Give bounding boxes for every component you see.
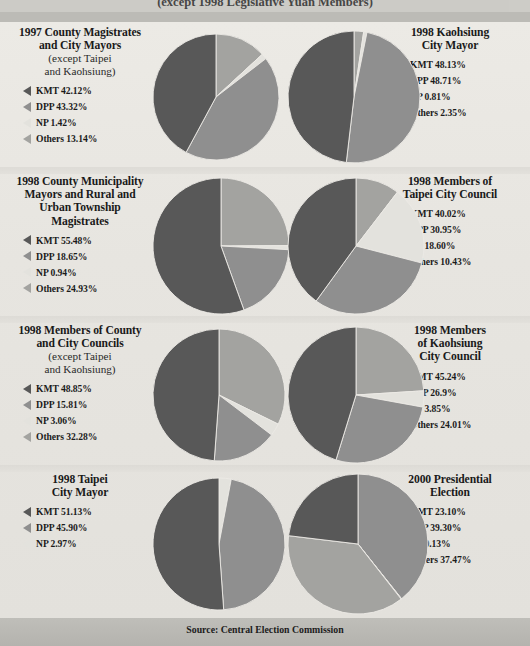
- legend-label: KMT 42.12%: [36, 85, 92, 96]
- chart-row-3: 1998 Members of Countyand City Councils(…: [0, 320, 530, 469]
- chart-title-line: and City Councils: [5, 337, 155, 350]
- legend-label: Others 32.28%: [36, 431, 97, 442]
- legend-item: Others 13.14%: [23, 131, 97, 146]
- footer-band: Source: Central Election Commission: [0, 618, 530, 646]
- chart-text-block: 1998 County MunicipalityMayors and Rural…: [5, 175, 155, 296]
- top-band: [0, 12, 530, 22]
- pie-chart: [287, 326, 425, 464]
- legend-item: Others 32.28%: [23, 429, 97, 444]
- chart-subtitle-line: (except Taipei: [5, 350, 155, 363]
- pie-slice: [153, 329, 219, 461]
- chart-row-2: 1998 County MunicipalityMayors and Rural…: [0, 171, 530, 320]
- chart-cell-7: 2000 PresidentialElectionKMT 23.10%DPP 3…: [265, 469, 530, 618]
- legend-marker-triangle-icon: [23, 400, 31, 410]
- pie-chart: [287, 177, 425, 315]
- legend-item: KMT 55.48%: [23, 233, 92, 248]
- chart-title: 1998 Members of Countyand City Councils: [5, 324, 155, 350]
- chart-title-line: 1997 County Magistrates: [5, 26, 155, 39]
- legend-item: NP 2.97%: [23, 536, 77, 551]
- chart-cell-1: 1998 KaohsiungCity MayorKMT 48.13%DPP 48…: [265, 22, 530, 171]
- legend-item: KMT 42.12%: [23, 83, 92, 98]
- chart-subtitle: (except Taipeiand Kaohsiung): [5, 52, 155, 78]
- legend-marker-triangle-icon: [23, 235, 31, 245]
- chart-title: 1998 TaipeiCity Mayor: [5, 473, 155, 499]
- legend-label: DPP 45.90%: [36, 522, 87, 533]
- legend-marker-triangle-icon: [23, 267, 31, 277]
- legend-item: Others 24.93%: [23, 281, 97, 296]
- legend-item: DPP 15.81%: [23, 397, 87, 412]
- legend-label: NP 2.97%: [36, 538, 77, 549]
- legend-marker-triangle-icon: [23, 384, 31, 394]
- legend-marker-triangle-icon: [23, 283, 31, 293]
- pie-slice: [288, 474, 358, 544]
- legend-marker-triangle-icon: [23, 134, 31, 144]
- chart-title-line: City Mayor: [5, 486, 155, 499]
- chart-legend: KMT 51.13%DPP 45.90%NP 2.97%: [5, 504, 155, 551]
- chart-cell-6: 1998 TaipeiCity MayorKMT 51.13%DPP 45.90…: [0, 469, 265, 618]
- chart-title-line: Mayors and Rural and: [5, 188, 155, 201]
- chart-row-1: 1997 County Magistratesand City Mayors(e…: [0, 22, 530, 171]
- chart-cell-4: 1998 Members of Countyand City Councils(…: [0, 320, 265, 469]
- legend-item: KMT 48.85%: [23, 381, 92, 396]
- legend-label: KMT 55.48%: [36, 235, 92, 246]
- chart-title: 1998 County MunicipalityMayors and Rural…: [5, 175, 155, 228]
- chart-legend: KMT 55.48%DPP 18.65%NP 0.94%Others 24.93…: [5, 233, 155, 296]
- charts-sheet: 1997 County Magistratesand City Mayors(e…: [0, 22, 530, 618]
- chart-cell-3: 1998 Members ofTaipei City CouncilKMT 40…: [265, 171, 530, 320]
- legend-marker-triangle-icon: [23, 416, 31, 426]
- chart-title-line: 1998 County Municipality: [5, 175, 155, 188]
- legend-item: DPP 45.90%: [23, 520, 87, 535]
- legend-label: DPP 15.81%: [36, 399, 87, 410]
- chart-legend: KMT 48.85%DPP 15.81%NP 3.06%Others 32.28…: [5, 381, 155, 444]
- chart-title-line: Urban Township: [5, 201, 155, 214]
- source-note: Source: Central Election Commission: [0, 618, 530, 642]
- legend-marker-triangle-icon: [23, 539, 31, 549]
- chart-subtitle-line: (except Taipei: [5, 52, 155, 65]
- legend-item: NP 3.06%: [23, 413, 77, 428]
- chart-cell-5: 1998 Membersof KaohsiungCity CouncilKMT …: [265, 320, 530, 469]
- chart-title-line: and City Mayors: [5, 39, 155, 52]
- pie-slice: [288, 31, 354, 163]
- chart-subtitle: (except Taipeiand Kaohsiung): [5, 350, 155, 376]
- legend-label: NP 3.06%: [36, 415, 77, 426]
- chart-title: 1997 County Magistratesand City Mayors: [5, 26, 155, 52]
- chart-title-line: Magistrates: [5, 215, 155, 228]
- legend-item: KMT 51.13%: [23, 504, 92, 519]
- pie-chart: [152, 33, 280, 161]
- legend-item: DPP 43.32%: [23, 99, 87, 114]
- legend-marker-triangle-icon: [23, 102, 31, 112]
- legend-item: NP 0.94%: [23, 265, 77, 280]
- chart-cell-0: 1997 County Magistratesand City Mayors(e…: [0, 22, 265, 171]
- legend-label: KMT 51.13%: [36, 506, 92, 517]
- pie-slice: [356, 327, 424, 395]
- legend-marker-triangle-icon: [23, 86, 31, 96]
- chart-title-line: 1998 Members of County: [5, 324, 155, 337]
- legend-label: DPP 43.32%: [36, 101, 87, 112]
- legend-marker-triangle-icon: [23, 507, 31, 517]
- legend-marker-triangle-icon: [23, 251, 31, 261]
- chart-subtitle-line: and Kaohsiung): [5, 65, 155, 78]
- legend-item: DPP 18.65%: [23, 249, 87, 264]
- pie-slice: [153, 478, 224, 610]
- infographic-page: (except 1998 Legislative Yuan Members) 1…: [0, 0, 530, 646]
- chart-text-block: 1997 County Magistratesand City Mayors(e…: [5, 26, 155, 146]
- legend-label: NP 0.94%: [36, 267, 77, 278]
- pie-chart: [287, 473, 429, 615]
- legend-marker-triangle-icon: [23, 432, 31, 442]
- chart-subtitle-line: and Kaohsiung): [5, 363, 155, 376]
- chart-text-block: 1998 TaipeiCity MayorKMT 51.13%DPP 45.90…: [5, 473, 155, 551]
- pie-chart: [287, 30, 421, 164]
- top-caption: (except 1998 Legislative Yuan Members): [0, 0, 530, 12]
- chart-text-block: 1998 Members of Countyand City Councils(…: [5, 324, 155, 444]
- chart-legend: KMT 42.12%DPP 43.32%NP 1.42%Others 13.14…: [5, 83, 155, 146]
- legend-label: KMT 48.85%: [36, 383, 92, 394]
- legend-label: Others 24.93%: [36, 283, 97, 294]
- chart-title-line: 1998 Taipei: [5, 473, 155, 486]
- legend-marker-triangle-icon: [23, 118, 31, 128]
- legend-item: NP 1.42%: [23, 115, 77, 130]
- legend-label: DPP 18.65%: [36, 251, 87, 262]
- legend-marker-triangle-icon: [23, 523, 31, 533]
- legend-label: Others 13.14%: [36, 133, 97, 144]
- legend-label: NP 1.42%: [36, 117, 77, 128]
- chart-row-4: 1998 TaipeiCity MayorKMT 51.13%DPP 45.90…: [0, 469, 530, 618]
